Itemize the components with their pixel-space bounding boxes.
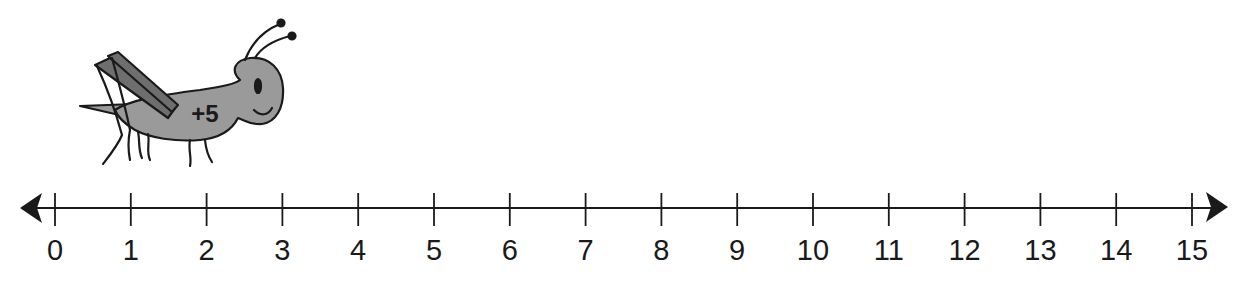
grasshopper-icon bbox=[80, 20, 296, 167]
tick-label-3: 3 bbox=[274, 236, 290, 265]
tick-label-1: 1 bbox=[123, 236, 139, 265]
tick-label-11: 11 bbox=[874, 236, 904, 265]
tick-label-0: 0 bbox=[47, 236, 63, 265]
number-line-svg: +5 bbox=[0, 0, 1244, 288]
tick-label-9: 9 bbox=[729, 236, 745, 265]
tick-label-15: 15 bbox=[1176, 236, 1208, 265]
tick-label-8: 8 bbox=[653, 236, 669, 265]
tick-label-13: 13 bbox=[1024, 236, 1056, 265]
tick-label-6: 6 bbox=[502, 236, 518, 265]
tick-label-5: 5 bbox=[426, 236, 442, 265]
tick-label-4: 4 bbox=[350, 236, 366, 265]
tick-label-10: 10 bbox=[797, 236, 829, 265]
tick-label-12: 12 bbox=[948, 236, 980, 265]
tick-marks bbox=[55, 193, 1192, 226]
tick-label-7: 7 bbox=[578, 236, 594, 265]
tick-label-14: 14 bbox=[1100, 236, 1132, 265]
tick-label-2: 2 bbox=[199, 236, 215, 265]
grasshopper-label: +5 bbox=[191, 100, 218, 127]
number-line-diagram: +5 0123456789101112131415 bbox=[0, 0, 1244, 288]
